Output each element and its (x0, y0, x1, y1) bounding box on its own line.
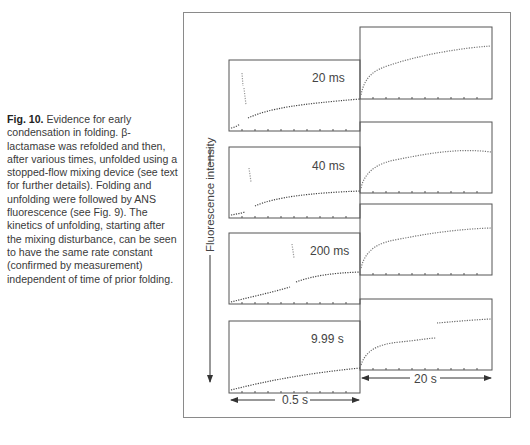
x-axis-left-label: 0.5 s (282, 393, 308, 407)
panel-label-999s: 9.99 s (311, 332, 344, 346)
panel-slow-200ms (360, 204, 492, 275)
panel-label-20ms: 20 ms (312, 71, 345, 85)
panel-slow-999s (360, 299, 492, 370)
panel-slow-20ms (360, 27, 492, 99)
x-axis-right-label: 20 s (414, 372, 437, 386)
panel-fast-40ms (229, 147, 360, 218)
panel-label-40ms: 40 ms (312, 159, 345, 173)
panel-slow-40ms (360, 122, 492, 193)
kinetics-figure: 20 ms 40 ms 200 ms 9.99 s Fluorescence i… (0, 0, 530, 445)
y-axis-label: Fluorescence intensity (204, 137, 216, 252)
panel-label-200ms: 200 ms (310, 244, 349, 258)
